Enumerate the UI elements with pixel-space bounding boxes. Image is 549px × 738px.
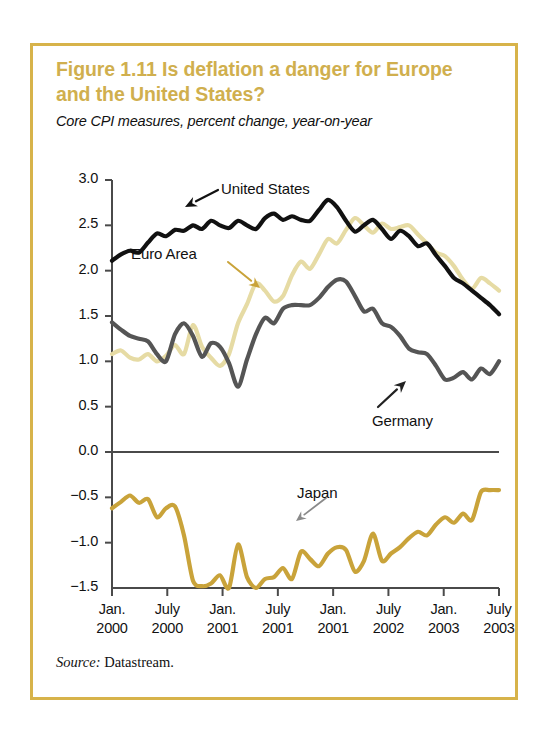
y-tick-label: 1.5 (52, 306, 98, 322)
x-tick-label: Jan.2001 (302, 600, 364, 638)
series-line-germany (112, 279, 499, 386)
x-tick-label: July2001 (247, 600, 309, 638)
source-note: Source: Datastream. (56, 654, 174, 671)
x-tick-year: 2003 (483, 620, 514, 636)
x-tick-month: July (487, 601, 512, 617)
x-tick-month: Jan. (209, 601, 236, 617)
y-tick-label: 3.0 (52, 170, 98, 186)
y-tick-label: −1.5 (52, 578, 98, 594)
x-tick-month: Jan. (320, 601, 347, 617)
x-tick-label: July2003 (468, 600, 530, 638)
x-tick-month: Jan. (99, 601, 126, 617)
x-tick-month: July (265, 601, 290, 617)
source-text: Datastream. (101, 654, 174, 670)
chart-axes (105, 180, 499, 596)
y-tick-label: 1.0 (52, 351, 98, 367)
chart-annotation-arrows (185, 190, 406, 521)
x-tick-year: 2000 (152, 620, 183, 636)
arrow-japan-head (296, 511, 307, 521)
x-tick-month: Jan. (430, 601, 457, 617)
x-tick-month: July (155, 601, 180, 617)
x-tick-year: 2001 (262, 620, 293, 636)
y-tick-label: 2.0 (52, 261, 98, 277)
x-tick-label: Jan.2001 (192, 600, 254, 638)
y-tick-label: −1.0 (52, 533, 98, 549)
y-tick-label: 0.0 (52, 442, 98, 458)
figure-panel: Figure 1.11 Is deflation a danger for Eu… (0, 0, 549, 738)
x-tick-year: 2002 (373, 620, 404, 636)
series-label-japan: Japan (297, 484, 337, 501)
x-tick-label: Jan.2000 (81, 600, 143, 638)
x-tick-year: 2001 (207, 620, 238, 636)
series-line-japan (112, 489, 499, 588)
series-label-united-states: United States (221, 180, 310, 197)
x-tick-year: 2000 (96, 620, 127, 636)
y-tick-label: 0.5 (52, 397, 98, 413)
source-label: Source: (56, 654, 101, 670)
arrow-germany-shaft (378, 389, 397, 407)
x-tick-year: 2001 (317, 620, 348, 636)
x-tick-label: July2000 (136, 600, 198, 638)
x-tick-label: July2002 (357, 600, 419, 638)
x-tick-year: 2003 (428, 620, 459, 636)
y-tick-label: −0.5 (52, 487, 98, 503)
series-label-germany: Germany (372, 412, 433, 429)
arrow-united-states-shaft (196, 190, 218, 201)
series-label-euro-area: Euro Area (131, 245, 197, 262)
arrow-euro-area-shaft (228, 262, 251, 281)
y-tick-label: 2.5 (52, 215, 98, 231)
x-tick-label: Jan.2003 (413, 600, 475, 638)
x-tick-month: July (376, 601, 401, 617)
